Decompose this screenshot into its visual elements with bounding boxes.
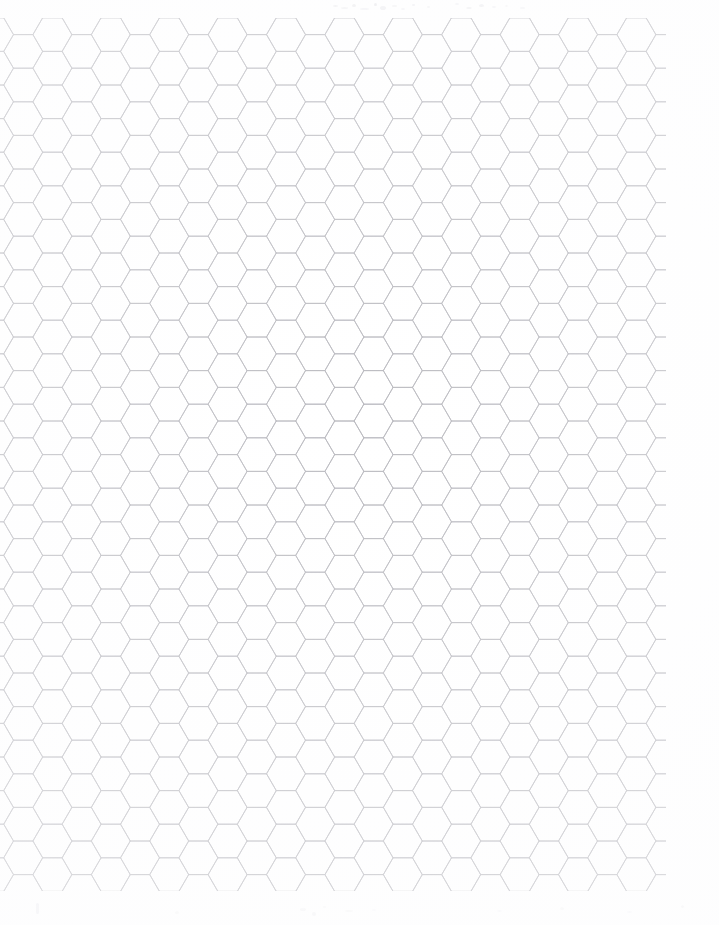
hex-cell-outlines xyxy=(0,0,685,925)
hex-grid xyxy=(0,0,719,925)
scanned-page xyxy=(0,0,719,925)
hex-grid-canvas xyxy=(0,0,719,925)
